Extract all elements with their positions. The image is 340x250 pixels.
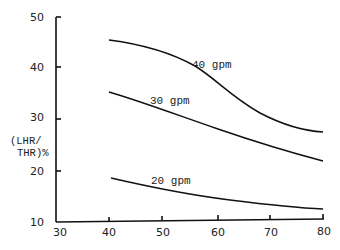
x-axis bbox=[56, 214, 324, 222]
x-tick-label-80: 80 bbox=[317, 225, 331, 238]
curve-label-20-gpm: 20 gpm bbox=[151, 175, 191, 187]
x-tick-label-70: 70 bbox=[264, 226, 278, 239]
y-tick-label-30: 30 bbox=[30, 111, 44, 124]
y-axis bbox=[56, 17, 61, 222]
y-tick-label-50: 50 bbox=[30, 11, 44, 24]
y-axis-label-line2: THR)% bbox=[17, 147, 49, 159]
y-tick-label-40: 40 bbox=[30, 61, 44, 74]
curve-40-gpm bbox=[109, 40, 323, 132]
line-chart: 50 40 30 20 10 (LHR/ THR)% 30 40 50 60 7… bbox=[0, 0, 340, 250]
y-axis-label-line1: (LHR/ bbox=[10, 135, 42, 147]
chart-canvas: 50 40 30 20 10 (LHR/ THR)% 30 40 50 60 7… bbox=[0, 0, 340, 250]
x-tick-label-30: 30 bbox=[53, 226, 67, 239]
curve-label-30-gpm: 30 gpm bbox=[150, 95, 190, 107]
x-tick-label-50: 50 bbox=[156, 226, 170, 239]
curve-20-gpm bbox=[111, 178, 323, 209]
x-tick-label-60: 60 bbox=[211, 226, 225, 239]
y-tick-label-20: 20 bbox=[30, 165, 44, 178]
y-tick-label-10: 10 bbox=[30, 216, 44, 229]
x-tick-label-40: 40 bbox=[102, 226, 116, 239]
curve-label-40-gpm: 40 gpm bbox=[192, 59, 232, 71]
